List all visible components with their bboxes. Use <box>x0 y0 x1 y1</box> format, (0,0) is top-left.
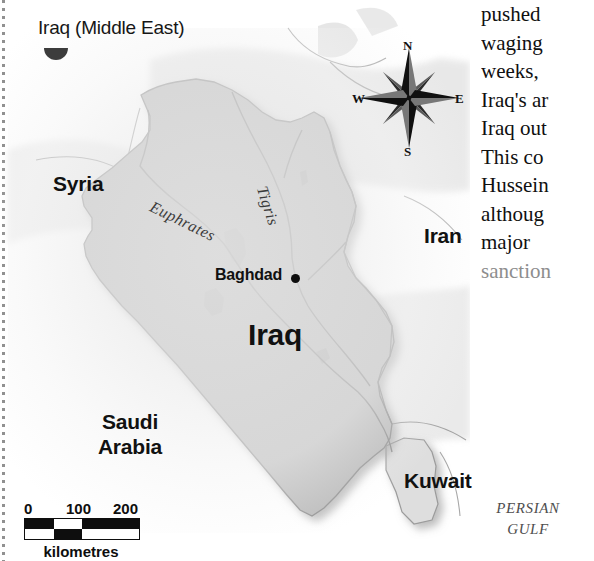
water-label-persian-gulf: PERSIAN GULF <box>466 498 590 540</box>
scale-bar-row-top <box>25 519 139 529</box>
body-text-line: Iraq's ar <box>481 86 594 115</box>
compass-rose: N S W E <box>352 36 466 164</box>
scale-bar-row-bottom <box>25 529 139 539</box>
body-text-column: pushedwagingweeks,Iraq's arIraq outThis … <box>481 0 594 300</box>
compass-label-east: E <box>455 91 464 107</box>
body-text-line: major <box>481 228 594 257</box>
country-label-syria: Syria <box>53 172 103 196</box>
body-text-line: pushed <box>481 0 594 29</box>
body-text-line: This co <box>481 143 594 172</box>
city-label-baghdad: Baghdad <box>215 266 282 284</box>
compass-label-west: W <box>352 91 365 107</box>
country-label-saudi-arabia-line1: Saudi <box>84 409 176 434</box>
map-figure-page: Iraq (Middle East) Syria Iran Iraq Kuwai… <box>0 0 594 561</box>
water-label-persian-gulf-line2: GULF <box>466 519 590 540</box>
scale-tick-200: 200 <box>113 500 138 517</box>
compass-label-north: N <box>403 38 412 54</box>
scale-bar-graphic <box>24 518 140 540</box>
body-text-line: weeks, <box>481 57 594 86</box>
scale-tick-labels: 0 100 200 <box>24 500 174 518</box>
body-text-line: althoug <box>481 200 594 229</box>
body-text-line: Hussein <box>481 171 594 200</box>
scale-tick-100: 100 <box>66 500 91 517</box>
compass-label-south: S <box>404 144 411 160</box>
country-label-iran: Iran <box>424 224 462 248</box>
city-marker-baghdad <box>291 274 300 283</box>
scale-unit-caption: kilometres <box>24 543 138 560</box>
map-scale-bar: 0 100 200 kilometres <box>24 500 174 560</box>
water-label-persian-gulf-line1: PERSIAN <box>466 498 590 519</box>
body-text-line: Iraq out <box>481 114 594 143</box>
country-label-kuwait: Kuwait <box>404 469 472 493</box>
body-text-line: sanction <box>481 257 594 286</box>
country-label-saudi-arabia: Saudi Arabia <box>84 409 176 459</box>
scale-tick-0: 0 <box>24 500 32 517</box>
body-text-line: waging <box>481 29 594 58</box>
map-title: Iraq (Middle East) <box>38 17 184 39</box>
country-label-saudi-arabia-line2: Arabia <box>84 434 176 459</box>
country-label-iraq: Iraq <box>248 318 302 352</box>
